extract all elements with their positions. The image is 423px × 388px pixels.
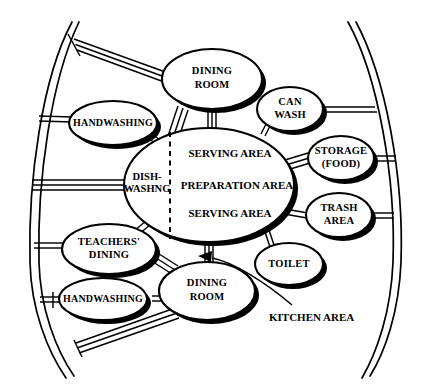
left-boundary-wall [30, 22, 79, 378]
serving-area-lower-label: SERVING AREA [188, 207, 271, 219]
teachers-dining-label-line2: DINING [89, 249, 129, 260]
dishwashing-label-line2: WASHNG [124, 183, 171, 194]
node-teachers-dining[interactable]: TEACHERS' DINING [62, 224, 160, 278]
node-can-wash[interactable]: CAN WASH [257, 87, 327, 135]
can-wash-label-line1: CAN [278, 96, 302, 107]
node-handwashing-upper[interactable]: HANDWASHING [69, 101, 161, 149]
kitchen-area-caption: KITCHEN AREA [269, 311, 354, 323]
dining-room-top-label-line1: DINING [192, 65, 232, 76]
dining-room-bottom-label-line1: DINING [187, 277, 227, 288]
central-kitchen-node[interactable]: DISH- WASHNG SERVING AREA PREPARATION AR… [124, 128, 298, 246]
teachers-dining-label-line1: TEACHERS' [78, 236, 140, 247]
node-storage-food[interactable]: STORAGE (FOOD) [308, 136, 378, 184]
corridor-left-to-handwashing-upper [39, 116, 73, 122]
node-toilet[interactable]: TOILET [255, 243, 327, 289]
corridor-left-to-dishwashing [32, 180, 132, 190]
handwashing-upper-label: HANDWASHING [73, 117, 153, 128]
trash-area-label-line1: TRASH [320, 202, 357, 213]
node-dining-room-top[interactable]: DINING ROOM [162, 49, 266, 113]
corridor-can-wash-to-right-boundary [319, 107, 377, 112]
kitchen-floorplan-diagram: DISH- WASHNG SERVING AREA PREPARATION AR… [0, 0, 423, 388]
dining-room-top-label-line2: ROOM [195, 79, 230, 90]
toilet-label: TOILET [268, 258, 309, 269]
node-trash-area[interactable]: TRASH AREA [306, 193, 376, 241]
node-handwashing-lower[interactable]: HANDWASHING [59, 278, 151, 324]
storage-food-label-line2: (FOOD) [322, 158, 361, 170]
floorplan-svg: DISH- WASHNG SERVING AREA PREPARATION AR… [0, 0, 423, 388]
dishwashing-label-line1: DISH- [132, 171, 162, 182]
serving-area-upper-label: SERVING AREA [188, 147, 271, 159]
trash-area-label-line2: AREA [324, 215, 355, 226]
storage-food-label-line1: STORAGE [315, 145, 368, 156]
dining-room-bottom-label-line2: ROOM [190, 291, 225, 302]
preparation-area-label: PREPARATION AREA [181, 179, 293, 191]
handwashing-lower-label: HANDWASHING [63, 293, 143, 304]
can-wash-label-line2: WASH [274, 109, 306, 120]
